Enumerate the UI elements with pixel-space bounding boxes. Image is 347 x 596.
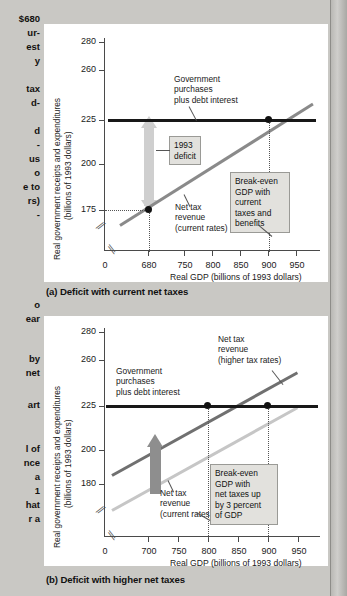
margin-fragment: r a [28,514,40,524]
plot-area-a: Real government receipts and expenditure… [44,24,328,282]
x-tick-label-a: 680 [134,260,164,270]
x-tick-a [296,250,297,256]
x-axis-break-b: ∕∕ [106,531,119,539]
y-tick-label-b: 200 [70,444,96,454]
x-tick-label-a: 0 [90,260,120,270]
data-point-breakeven-current-b [264,402,271,409]
net-tax-higher-annotation-b: Net tax revenue (higher tax rates) [218,334,281,365]
y-tick-label-a: 260 [70,64,96,74]
x-axis-label-a: Real GDP (billions of 1993 dollars) [170,272,302,282]
net-tax-current-annotation-b: Net tax revenue (current rates) [160,488,213,519]
x-tick-label-b: 750 [164,546,194,556]
y-tick-label-b: 280 [70,326,96,336]
x-tick-b [298,536,299,542]
margin-fragment: o [34,168,40,178]
y-tick-b [99,406,105,407]
data-point-breakeven-a [265,116,272,123]
x-axis-break-a: ∕∕ [106,245,119,253]
data-point-1993 [145,206,152,213]
y-axis-label-b-line1: Real government receipts and expenditure… [52,386,62,548]
x-tick-b [148,536,149,542]
margin-fragment: art [28,400,40,410]
government-purchases-line-a [108,119,316,122]
panel-b-caption: (b) Deficit with higher net taxes [46,574,185,585]
guide-680-a [149,210,150,252]
margin-fragment: $680 [19,14,40,24]
margin-fragment: est [26,42,40,52]
margin-fragment: net [26,368,40,378]
margin-fragment: e to [23,182,40,192]
y-tick-label-b: 225 [70,400,96,410]
y-tick-label-a: 175 [70,204,96,214]
margin-fragment: nce [24,458,40,468]
gov-purchases-annotation-a: Government purchases plus debt interest [174,74,238,105]
x-tick-a [184,250,185,256]
x-tick-label-b: 850 [224,546,254,556]
shift-arrow-head [147,434,163,447]
margin-fragment: a [35,472,40,482]
x-tick-label-b: 800 [194,546,224,556]
x-tick-b [178,536,179,542]
net-tax-annotation-a: Net tax revenue (current rates) [175,202,228,233]
data-point-breakeven-higher-b [204,402,211,409]
x-tick-a [240,250,241,256]
margin-fragment: tax [26,84,40,94]
guide-175-a [105,210,149,211]
margin-fragment: l of [26,444,40,454]
margin-fragment: rs) [28,196,40,206]
y-tick-a [99,42,105,43]
x-axis-b [104,536,320,537]
gov-purchases-annotation-b: Government purchases plus debt interest [116,366,180,397]
y-tick-a [99,164,105,165]
y-tick-b [99,450,105,451]
y-tick-label-a: 225 [70,114,96,124]
chart-panel-a: Real government receipts and expenditure… [44,24,328,282]
x-axis-label-b: Real GDP (billions of 1993 dollars) [170,558,302,568]
margin-fragment: d- [31,98,40,108]
y-tick-label-b: 260 [70,354,96,364]
panel-a-caption: (a) Deficit with current net taxes [46,286,188,297]
deficit-annotation-box: 1993 deficit [169,136,201,165]
x-tick-b [238,536,239,542]
margin-fragment: ear [26,314,40,324]
plot-area-b: Real government receipts and expenditure… [44,316,328,566]
y-axis-label-a-line1: Real government receipts and expenditure… [52,98,62,260]
margin-fragment: ur- [27,28,40,38]
x-tick-label-b: 950 [284,546,314,556]
x-tick-label-b: 0 [90,546,120,556]
margin-fragment: - [37,210,40,220]
breakeven-annotation-box-b: Break-even GDP with net taxes up by 3 pe… [210,464,278,525]
y-tick-b [99,332,105,333]
x-tick-label-a: 900 [254,260,284,270]
y-tick-label-a: 280 [70,36,96,46]
y-tick-b [99,360,105,361]
x-tick-label-a: 800 [198,260,228,270]
margin-fragment: 1 [35,486,40,496]
page-right-edge [331,0,347,596]
government-purchases-line-b [106,405,318,408]
margin-fragment: y [35,56,40,66]
x-tick-label-b: 900 [254,546,284,556]
x-tick-label-b: 700 [134,546,164,556]
x-tick-a [212,250,213,256]
y-axis-label-b-line2: (billions of 1993 dollars) [63,420,73,508]
x-tick-label-a: 850 [226,260,256,270]
margin-fragment: d [34,126,40,136]
margin-fragment: by [29,354,40,364]
margin-fragment: o [34,300,40,310]
deficit-arrow-shaft [144,126,154,206]
margin-fragment: - [37,140,40,150]
y-tick-label-a: 200 [70,158,96,168]
shift-arrow-shaft [150,446,161,494]
breakeven-annotation-box-a: Break-even GDP with current taxes and be… [230,172,290,233]
deficit-arrow-head-up [141,116,157,128]
chart-panel-b: Real government receipts and expenditure… [44,316,328,566]
x-tick-label-a: 750 [170,260,200,270]
x-tick-label-a: 950 [282,260,312,270]
deficit-leader [156,150,170,151]
margin-text-column: $680 ur- est y tax d- d - us o e to rs) … [0,0,42,596]
y-tick-b [99,484,105,485]
y-tick-a [99,70,105,71]
margin-fragment: us [29,154,40,164]
y-tick-a [99,120,105,121]
